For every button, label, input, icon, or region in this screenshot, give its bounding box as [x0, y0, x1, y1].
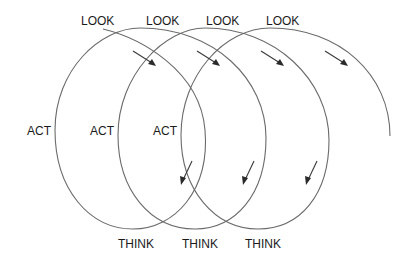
think-arrow-3 [305, 161, 317, 185]
think-label-3: THINK [245, 237, 281, 251]
look-arrow-3 [261, 51, 284, 66]
act-label-1: ACT [27, 124, 52, 138]
think-label-2: THINK [182, 237, 218, 251]
act-label-3: ACT [153, 124, 178, 138]
look-arrow-2 [197, 51, 220, 66]
look-label-3: LOOK [206, 14, 239, 28]
act-label-2: ACT [90, 124, 115, 138]
look-arrow-4 [325, 51, 348, 66]
spiral-diagram: LOOK LOOK LOOK LOOK ACT ACT ACT THINK TH… [0, 0, 403, 270]
think-arrow-2 [242, 161, 254, 185]
look-label-4: LOOK [266, 14, 299, 28]
think-label-1: THINK [118, 237, 154, 251]
look-label-1: LOOK [81, 14, 114, 28]
look-label-2: LOOK [146, 14, 179, 28]
